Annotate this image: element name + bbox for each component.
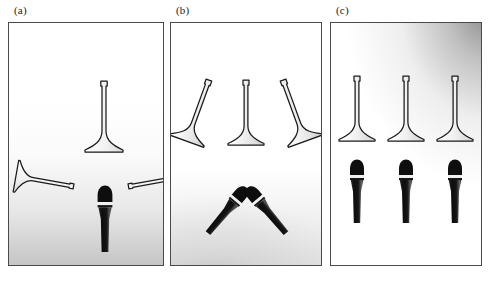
horn-upright-center-icon — [388, 76, 424, 141]
microphone-center-icon — [98, 186, 113, 253]
panel-b-illustration — [171, 23, 321, 265]
microphone-left-icon — [350, 159, 364, 223]
figure-root: (a) — [0, 0, 488, 281]
horn-left-pointing-right-icon — [13, 160, 76, 202]
horn-right-tilted-icon — [266, 74, 321, 147]
microphone-crossed-right-icon — [243, 183, 291, 237]
panel-b-box — [170, 22, 322, 266]
panel-a-box — [8, 22, 164, 266]
panel-c-box — [330, 22, 482, 266]
panel-b-label: (b) — [176, 4, 189, 17]
panel-a-illustration — [9, 23, 163, 265]
horn-left-tilted-icon — [171, 74, 226, 147]
panel-c-illustration — [331, 23, 481, 265]
panel-a: (a) — [8, 0, 164, 281]
microphone-center-icon — [399, 159, 413, 223]
horn-right-pointing-left-icon — [126, 160, 163, 202]
horn-upright-center-icon — [85, 81, 123, 152]
panel-c-label: (c) — [336, 4, 349, 17]
microphone-right-icon — [448, 159, 462, 223]
horn-upright-right-icon — [437, 76, 473, 141]
panel-b: (b) — [170, 0, 322, 281]
horn-upright-center-icon — [228, 80, 264, 145]
horn-upright-left-icon — [339, 76, 375, 141]
panel-c: (c) — [330, 0, 482, 281]
microphone-crossed-left-icon — [203, 183, 251, 237]
panel-a-label: (a) — [14, 4, 27, 17]
